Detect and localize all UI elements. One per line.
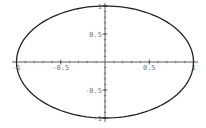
tick-labels: -1-0.50.51-1-0.50.51: [12, 3, 195, 123]
y-tick-label: 0.5: [89, 31, 102, 39]
y-tick-label: -0.5: [85, 87, 102, 95]
axes: [12, 3, 198, 122]
x-tick-label: 0.5: [143, 64, 156, 72]
ellipse-plot: -1-0.50.51-1-0.50.51: [0, 0, 206, 128]
x-tick-label: -0.5: [52, 64, 69, 72]
